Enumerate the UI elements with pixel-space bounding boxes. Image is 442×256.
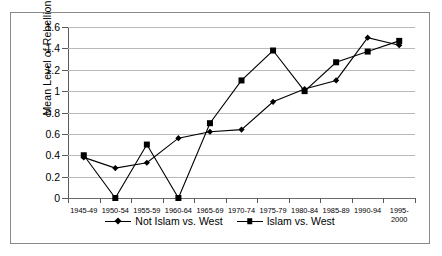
data-series-svg xyxy=(68,27,415,198)
data-point-marker xyxy=(365,49,371,55)
x-axis-tick xyxy=(194,198,195,203)
data-point-marker xyxy=(112,165,118,171)
x-axis-tick xyxy=(383,198,384,203)
x-axis-tick xyxy=(320,198,321,203)
x-axis-tick xyxy=(415,198,416,203)
data-point-marker xyxy=(112,195,118,201)
legend-entry[interactable]: Not Islam vs. West xyxy=(105,215,222,227)
legend-entry[interactable]: Islam vs. West xyxy=(237,215,335,227)
x-axis-tick xyxy=(131,198,132,203)
y-axis-tick-label: 0.4 xyxy=(45,149,60,161)
x-axis-tick xyxy=(68,198,69,203)
data-point-marker xyxy=(144,142,150,148)
data-point-marker xyxy=(175,195,181,201)
legend-label: Not Islam vs. West xyxy=(135,215,222,227)
plot-area: 00.20.40.60.811.21.41.6 1945-491950-5419… xyxy=(68,27,415,198)
x-axis-tick xyxy=(257,198,258,203)
x-axis-tick xyxy=(226,198,227,203)
y-axis-tick-label: 0.2 xyxy=(45,171,60,183)
data-point-marker xyxy=(270,48,276,54)
x-axis-tick xyxy=(163,198,164,203)
square-marker-icon xyxy=(247,218,253,224)
y-axis-tick-label: 1.2 xyxy=(45,64,60,76)
series-line xyxy=(84,41,399,198)
gridline xyxy=(68,198,415,199)
y-axis-tick-label: 1 xyxy=(54,85,60,97)
y-axis-tick-label: 0.6 xyxy=(45,128,60,140)
x-axis-tick-label: 1990-94 xyxy=(348,206,388,215)
x-axis-tick xyxy=(289,198,290,203)
legend-swatch xyxy=(237,216,263,226)
data-point-marker xyxy=(396,38,402,44)
data-point-marker xyxy=(207,120,213,126)
y-axis-tick-label: 1.4 xyxy=(45,42,60,54)
diamond-marker-icon xyxy=(115,217,122,224)
data-point-marker xyxy=(302,88,308,94)
x-axis-tick xyxy=(352,198,353,203)
y-axis-tick-label: 0 xyxy=(54,192,60,204)
chart-container: Mean Level of Rebellion 00.20.40.60.811.… xyxy=(10,12,430,244)
data-point-marker xyxy=(239,77,245,83)
data-point-marker xyxy=(333,59,339,65)
y-axis-tick-label: 0.8 xyxy=(45,107,60,119)
y-axis-tick-label: 1.6 xyxy=(45,21,60,33)
chart-legend: Not Islam vs. WestIslam vs. West xyxy=(11,215,429,227)
x-axis-tick xyxy=(100,198,101,203)
data-point-marker xyxy=(81,152,87,158)
legend-swatch xyxy=(105,216,131,226)
legend-label: Islam vs. West xyxy=(267,215,335,227)
